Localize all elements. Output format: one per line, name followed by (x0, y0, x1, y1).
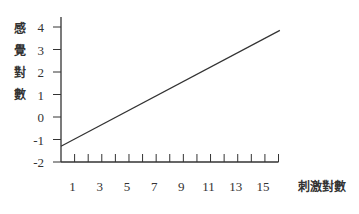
y-tick-label: 1 (38, 88, 45, 103)
y-axis: 43210-1-2 (33, 17, 61, 170)
chart: 感覺對數 43210-1-2 13579111315 刺激對數 (0, 0, 359, 214)
x-tick-label: 3 (97, 179, 104, 194)
x-tick-label: 15 (256, 179, 269, 194)
y-tick-label: 2 (38, 65, 45, 80)
x-tick-label: 11 (202, 179, 215, 194)
x-axis: 13579111315 (61, 154, 279, 194)
y-tick-label: 4 (38, 20, 45, 35)
x-tick-label: 5 (124, 179, 131, 194)
data-line (61, 30, 280, 146)
x-tick-label: 13 (229, 179, 242, 194)
y-tick-label: 0 (38, 110, 45, 125)
x-axis-title: 刺激對數 (297, 179, 346, 194)
y-tick-label: -1 (33, 133, 44, 148)
x-tick-label: 9 (178, 179, 185, 194)
y-axis-title-char: 數 (14, 87, 26, 102)
y-tick-label: 3 (38, 43, 45, 58)
y-axis-title-char: 感 (14, 21, 26, 36)
x-tick-label: 1 (69, 179, 76, 194)
x-axis-title-text: 刺激對數 (297, 179, 346, 194)
plot-area (61, 30, 280, 146)
y-tick-label: -2 (33, 155, 44, 170)
x-tick-label: 7 (151, 179, 158, 194)
y-axis-title: 感覺對數 (13, 21, 26, 102)
y-axis-title-char: 對 (14, 65, 26, 80)
y-axis-title-char: 覺 (13, 43, 26, 58)
